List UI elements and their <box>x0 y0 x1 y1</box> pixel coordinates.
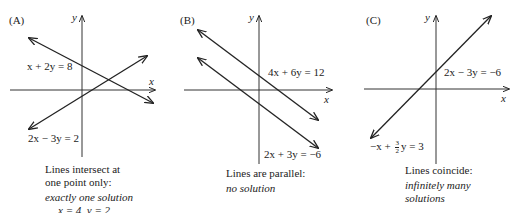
x-axis-label: x <box>149 75 154 87</box>
result-text: infinitely many <box>405 179 473 192</box>
x-axis-label: x <box>324 93 329 105</box>
result-text: no solution <box>226 182 305 195</box>
result-text: exactly one solution <box>45 191 133 204</box>
caption: Lines coincide: infinitely many solution… <box>405 164 473 205</box>
y-axis-label: y <box>249 11 254 23</box>
equation-label: 2x + 3y = −6 <box>264 148 321 160</box>
result-text: solutions <box>405 192 473 205</box>
equation-label: −x + 32y = 3 <box>370 140 424 155</box>
equation-label: 4x + 6y = 12 <box>268 66 324 78</box>
fraction: 32 <box>395 140 399 155</box>
panel-label: (A) <box>9 14 24 26</box>
panel-label: (C) <box>366 14 381 26</box>
caption: Lines are parallel: no solution <box>226 167 305 195</box>
equation-label: 2x − 3y = −6 <box>444 66 501 78</box>
solution-text: x = 4, y = 2 <box>45 204 133 213</box>
caption: Lines intersect at one point only: exact… <box>45 163 133 213</box>
y-axis-label: y <box>425 11 430 23</box>
equation-label: x + 2y = 8 <box>27 60 72 72</box>
panel-b: (B) y x 4x + 6y = 12 2x + 3y = −6 Lines … <box>172 0 344 213</box>
panel-label: (B) <box>180 14 195 26</box>
y-axis-label: y <box>72 11 77 23</box>
panel-c: (C) y x 2x − 3y = −6 −x + 32y = 3 Lines … <box>344 0 516 213</box>
panel-a: (A) y x x + 2y = 8 2x − 3y = 2 Lines int… <box>0 0 172 213</box>
equation-label: 2x − 3y = 2 <box>28 132 79 144</box>
x-axis-label: x <box>501 92 506 104</box>
